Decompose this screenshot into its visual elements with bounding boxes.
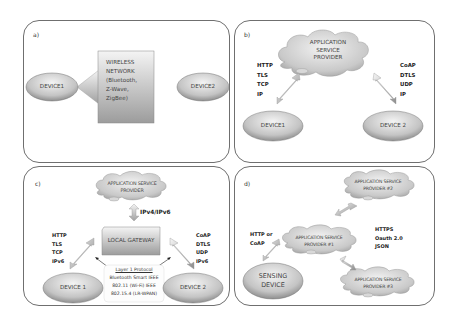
right-protocol-stack: CoAP DTLS UDP IPv6 <box>196 231 211 265</box>
uplink-label: IPv4/IPv6 <box>140 208 171 218</box>
sensing-device-label: SENSING DEVICE <box>245 272 301 290</box>
provider1-label: APPLICATION SERVICE PROVIDER #1 <box>286 234 352 248</box>
layer1-protocol-text: Layer 1 Protocol Bluetooth Smart IEEE 80… <box>100 266 168 298</box>
left-protocol-stack: HTTP TLS TCP IP <box>257 61 273 99</box>
double-arrow-icon <box>340 256 356 270</box>
arrow-left-icon <box>77 70 99 104</box>
device1-label: DEVICE 1 <box>50 284 96 291</box>
left-protocol-stack: HTTP or CoAP <box>250 230 272 247</box>
panel-c-label: c) <box>35 180 41 187</box>
double-arrow-icon <box>373 73 396 104</box>
double-arrow-icon <box>335 203 357 216</box>
device1-label: DEVICE1 <box>250 122 296 129</box>
device2-label: DEVICE2 <box>184 83 222 90</box>
double-arrow-icon <box>129 204 139 221</box>
panel-d-label: d) <box>244 180 250 187</box>
double-arrow-icon <box>70 238 94 269</box>
device2-label: DEVICE 2 <box>170 284 216 291</box>
panel-b-label: b) <box>244 31 250 38</box>
device2-label: DEVICE 2 <box>370 122 416 129</box>
wireless-network-label: WIRELESS NETWORK (Bluetooth, Z-Wave, Zig… <box>106 58 137 103</box>
cloud-label: APPLICATION SERVICE PROVIDER <box>100 180 164 194</box>
right-protocol-stack: HTTPS Oauth 2.0 JSON <box>375 225 403 251</box>
double-arrow-icon <box>277 73 300 104</box>
cloud-label: APPLICATION SERVICE PROVIDER <box>298 39 358 62</box>
left-protocol-stack: HTTP TLS TCP IPv6 <box>52 231 67 265</box>
right-protocol-stack: CoAP DTLS UDP IP <box>400 61 416 99</box>
double-arrow-icon <box>170 238 194 269</box>
device1-label: DEVICE1 <box>33 83 71 90</box>
provider2-label: APPLICATION SERVICE PROVIDER #2 <box>346 178 410 192</box>
local-gateway-label: LOCAL GATEWAY <box>102 237 160 244</box>
panel-a-label: a) <box>33 31 39 38</box>
provider3-label: APPLICATION SERVICE PROVIDER #3 <box>346 276 410 290</box>
